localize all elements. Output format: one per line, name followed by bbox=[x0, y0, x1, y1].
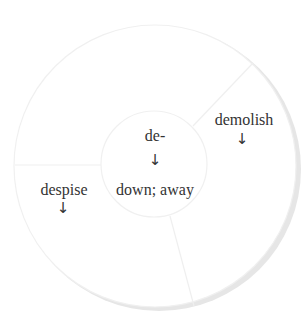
root-label: de- bbox=[145, 127, 165, 145]
segment-word-despise: despise bbox=[40, 181, 87, 199]
word-root-diagram: de- ↓ down; away demolish ↓ despise ↓ bbox=[0, 0, 308, 334]
segment-word-demolish: demolish bbox=[215, 111, 274, 129]
despise-down-arrow-icon: ↓ bbox=[57, 200, 70, 216]
center-down-arrow-icon: ↓ bbox=[149, 152, 162, 168]
demolish-down-arrow-icon: ↓ bbox=[236, 131, 249, 147]
root-meaning: down; away bbox=[116, 181, 194, 199]
